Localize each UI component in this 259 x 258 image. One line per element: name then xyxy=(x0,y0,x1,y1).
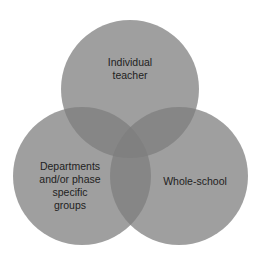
label-individual-teacher: Individual teacher xyxy=(90,56,170,82)
label-departments-groups: Departments and/or phase specific groups xyxy=(22,160,118,212)
venn-diagram xyxy=(0,0,259,258)
label-whole-school: Whole-school xyxy=(150,175,240,188)
